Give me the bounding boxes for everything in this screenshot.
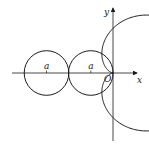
label-a-left: a [44, 61, 49, 71]
origin-label: O [104, 74, 112, 84]
x-axis-label: x [137, 75, 142, 85]
y-axis-label: y [103, 7, 110, 17]
cardioid-diagram: a a O x y [0, 0, 149, 149]
label-a-right: a [88, 61, 93, 71]
